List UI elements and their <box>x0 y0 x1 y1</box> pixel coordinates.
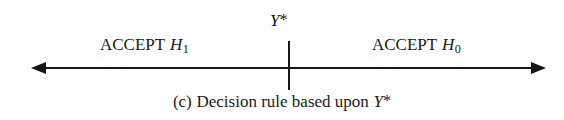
figure-caption: (c)Decision rule based uponY* <box>0 93 564 110</box>
accept-left-decision: ACCEPT <box>100 35 165 54</box>
accept-right-hypothesis: H <box>442 35 454 54</box>
caption-star: * <box>383 92 391 109</box>
caption-text: Decision rule based upon <box>197 92 369 111</box>
threshold-tick-mark <box>288 41 290 90</box>
accept-region-right-label: ACCEPTH0 <box>372 36 461 56</box>
caption-variable: Y <box>374 92 383 111</box>
accept-right-decision: ACCEPT <box>372 35 437 54</box>
accept-right-hypothesis-subscript: 0 <box>454 42 461 56</box>
accept-left-hypothesis-subscript: 1 <box>182 42 189 56</box>
caption-prefix: (c) <box>173 92 192 111</box>
threshold-label: Y* <box>270 12 288 29</box>
arrow-left-icon <box>31 62 46 74</box>
threshold-star: * <box>279 11 287 28</box>
decision-rule-figure: Y* ACCEPTH1 ACCEPTH0 (c)Decision rule ba… <box>0 0 564 120</box>
arrow-right-icon <box>531 62 546 74</box>
accept-left-hypothesis: H <box>170 35 182 54</box>
accept-region-left-label: ACCEPTH1 <box>100 36 189 56</box>
